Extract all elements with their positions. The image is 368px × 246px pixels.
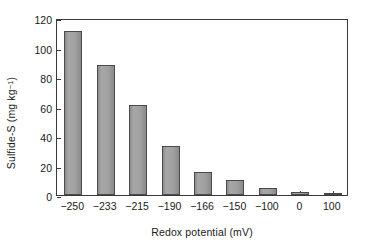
y-tick-mark bbox=[57, 197, 61, 198]
bar bbox=[259, 188, 277, 195]
y-axis-label-text: Sulfide-S (mg kg bbox=[6, 89, 17, 169]
y-tick-label: 120 bbox=[26, 15, 52, 26]
y-axis-label: Sulfide-S (mg kg−1) bbox=[2, 0, 20, 246]
y-tick-label: 60 bbox=[26, 103, 52, 114]
bar bbox=[324, 193, 342, 195]
plot-area: 020406080100120 bbox=[56, 19, 348, 196]
y-tick-mark bbox=[57, 79, 61, 80]
bar bbox=[97, 65, 115, 195]
bar bbox=[226, 180, 244, 195]
bar bbox=[64, 31, 82, 195]
y-tick-label: 40 bbox=[26, 133, 52, 144]
x-tick-label: 100 bbox=[309, 201, 355, 212]
y-tick-label: 20 bbox=[26, 162, 52, 173]
y-tick-mark bbox=[57, 138, 61, 139]
y-tick-mark bbox=[57, 20, 61, 21]
y-axis-label-tail: ) bbox=[6, 77, 17, 81]
bar bbox=[291, 192, 309, 195]
bar bbox=[162, 146, 180, 195]
y-tick-label: 100 bbox=[26, 44, 52, 55]
figure: Sulfide-S (mg kg−1) 020406080100120 Redo… bbox=[0, 0, 368, 246]
y-tick-mark bbox=[57, 168, 61, 169]
y-tick-mark bbox=[57, 50, 61, 51]
y-tick-mark bbox=[57, 109, 61, 110]
bar bbox=[129, 105, 147, 195]
y-tick-label: 0 bbox=[26, 192, 52, 203]
x-axis-label: Redox potential (mV) bbox=[56, 226, 348, 238]
bar bbox=[194, 172, 212, 195]
y-tick-label: 80 bbox=[26, 74, 52, 85]
